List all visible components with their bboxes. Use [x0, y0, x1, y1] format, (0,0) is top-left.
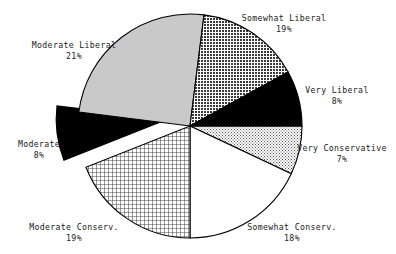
pie-label-somewhat-liberal-percent: 19%: [228, 24, 340, 35]
pie-label-moderate-liberal: Moderate Liberal 21%: [18, 40, 130, 62]
pie-label-somewhat-liberal-name: Somewhat Liberal: [228, 13, 340, 24]
pie-label-very-conservative-percent: 7%: [290, 154, 394, 165]
pie-label-very-liberal: Very Liberal 8%: [294, 85, 380, 107]
pie-label-somewhat-conservative: Somewhat Conserv. 18%: [230, 222, 354, 244]
pie-label-very-conservative-name: Very Conservative: [290, 143, 394, 154]
pie-label-very-conservative: Very Conservative 7%: [290, 143, 394, 165]
pie-label-moderate-conservative-percent: 19%: [12, 233, 136, 244]
pie-chart: Moderate Liberal 21% Somewhat Liberal 19…: [0, 0, 396, 254]
pie-label-moderate-liberal-percent: 21%: [18, 51, 130, 62]
pie-chart-canvas: [0, 0, 396, 254]
pie-label-moderate-name: Moderate: [2, 139, 76, 150]
pie-label-very-liberal-percent: 8%: [294, 96, 380, 107]
pie-label-moderate-conservative: Moderate Conserv. 19%: [12, 222, 136, 244]
pie-label-moderate-liberal-name: Moderate Liberal: [18, 40, 130, 51]
pie-label-somewhat-conservative-percent: 18%: [230, 233, 354, 244]
pie-label-somewhat-liberal: Somewhat Liberal 19%: [228, 13, 340, 35]
pie-label-moderate: Moderate 8%: [2, 139, 76, 161]
pie-label-moderate-percent: 8%: [2, 150, 76, 161]
pie-label-moderate-conservative-name: Moderate Conserv.: [12, 222, 136, 233]
pie-label-very-liberal-name: Very Liberal: [294, 85, 380, 96]
pie-label-somewhat-conservative-name: Somewhat Conserv.: [230, 222, 354, 233]
pie-slice-moderate-liberal[interactable]: [79, 14, 204, 126]
